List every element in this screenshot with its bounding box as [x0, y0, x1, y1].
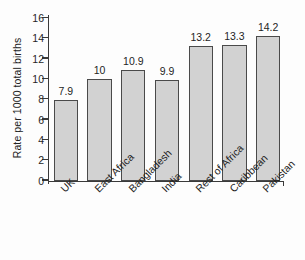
- bar[interactable]: [189, 46, 213, 180]
- bar-slot: 13.2: [189, 18, 213, 181]
- bar-value-label: 9.9: [160, 65, 175, 77]
- bar-value-label: 13.3: [224, 30, 244, 42]
- bar-value-label: 7.9: [59, 85, 74, 97]
- bar-value-label: 10: [94, 64, 106, 76]
- bar-value-label: 10.9: [123, 55, 143, 67]
- bar-slot: 10: [87, 18, 111, 181]
- y-tick-label: 2: [38, 154, 44, 166]
- bar-value-label: 14.2: [258, 21, 278, 33]
- y-tick-label: 10: [32, 73, 44, 85]
- bar[interactable]: [54, 100, 78, 180]
- bar[interactable]: [87, 79, 111, 181]
- bar-value-label: 13.2: [190, 31, 210, 43]
- y-tick-label: 0: [38, 175, 44, 187]
- y-tick-label: 16: [32, 12, 44, 24]
- y-tick-label: 6: [38, 114, 44, 126]
- bar-chart-figure: Rate per 1000 total births 0246810121416…: [0, 0, 305, 260]
- y-tick-label: 4: [38, 134, 44, 146]
- bar-slot: 7.9: [54, 18, 78, 181]
- y-tick-label: 12: [32, 53, 44, 65]
- y-axis-title-text: Rate per 1000 total births: [11, 38, 23, 159]
- y-tick-label: 8: [38, 93, 44, 105]
- y-tick-label: 14: [32, 32, 44, 44]
- y-axis-title: Rate per 1000 total births: [6, 0, 28, 196]
- x-axis-labels: UKEast AfricaBangladeshIndiaRest of Afri…: [48, 186, 284, 260]
